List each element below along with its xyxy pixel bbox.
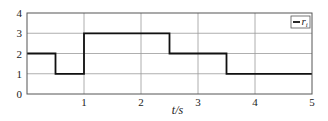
y-tick-label: 3 [17,27,23,39]
y-tick-label: 4 [17,7,23,19]
x-axis-label: t/s [172,103,184,117]
x-tick-label: 4 [252,96,258,108]
x-tick-label: 1 [81,96,87,108]
x-tick-label: 5 [309,96,315,108]
y-tick-label: 1 [17,68,23,80]
y-tick-label: 2 [17,48,23,60]
x-tick-label: 3 [195,96,201,108]
step-chart: 1234501234 t/s ri [0,0,328,121]
tick-layer: 1234501234 [17,7,316,108]
x-tick-label: 2 [138,96,144,108]
legend-label-sub: i [306,21,308,29]
legend: ri [291,15,310,29]
y-tick-label: 0 [17,88,23,100]
